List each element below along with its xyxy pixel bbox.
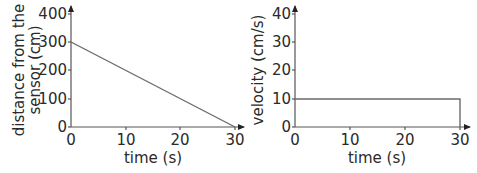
y-tick-label: 10 bbox=[272, 90, 291, 108]
y-tick-label: 100 bbox=[38, 90, 67, 108]
distance-chart: distance from the sensor (cm) 400 300 20… bbox=[10, 4, 245, 167]
x-tick-label: 0 bbox=[66, 131, 76, 149]
x-tick-label: 10 bbox=[340, 131, 359, 149]
y-tick-label: 300 bbox=[38, 33, 67, 51]
charts-canvas: distance from the sensor (cm) 400 300 20… bbox=[0, 0, 477, 173]
x-tick-label: 20 bbox=[395, 131, 414, 149]
y-tick-label: 400 bbox=[38, 5, 67, 23]
y-tick-label: 20 bbox=[272, 61, 291, 79]
x-tick-label: 30 bbox=[225, 131, 244, 149]
x-tick-label: 10 bbox=[116, 131, 135, 149]
y-tick-label: 200 bbox=[38, 61, 67, 79]
distance-line bbox=[71, 42, 235, 127]
x-tick-label: 20 bbox=[170, 131, 189, 149]
y-ticks: 40 30 20 10 0 bbox=[272, 5, 295, 136]
y-tick-label: 30 bbox=[272, 33, 291, 51]
y-ticks: 400 300 200 100 0 bbox=[38, 5, 71, 136]
x-tick-label: 0 bbox=[290, 131, 300, 149]
x-ticks: 0 10 20 30 bbox=[66, 127, 244, 149]
x-axis-label: time (s) bbox=[124, 149, 182, 167]
x-ticks: 0 10 20 30 bbox=[290, 127, 469, 149]
y-axis-label: velocity (cm/s) bbox=[249, 15, 267, 126]
x-tick-label: 30 bbox=[450, 131, 469, 149]
y-tick-label: 40 bbox=[272, 5, 291, 23]
x-axis-label: time (s) bbox=[348, 149, 406, 167]
velocity-line bbox=[295, 99, 460, 127]
velocity-chart: velocity (cm/s) 40 30 20 10 0 0 10 20 30… bbox=[249, 5, 470, 167]
